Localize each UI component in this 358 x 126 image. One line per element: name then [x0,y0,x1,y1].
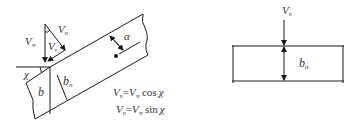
v-tau-label: Vτ [48,40,58,53]
alpha-reference-line [119,42,140,54]
v-n-label: Vn [58,23,68,36]
b-label: b [38,85,44,99]
normal-strip [232,45,344,83]
chi-angle-arc [40,67,42,73]
alpha-arrow-up [110,36,123,50]
alpha-label: α [124,30,130,42]
strip-right-break-edge [142,14,148,55]
right-vn-label: Vn [282,4,292,17]
v-inf-label: V∞ [25,35,37,48]
right-bn-label: bn [299,56,309,71]
triangle-angle-arc [45,30,50,32]
formula-cos: Vn=V∞cosχ [113,86,165,99]
bn-label: bn [63,74,73,89]
chi-label: χ [23,68,30,80]
formula-sin: Vn=V∞sinχ [116,103,166,116]
diagram-canvas: χ V∞ Vn Vτ b bn α Vn=V∞cosχ Vn=V∞sinχ Vn… [0,0,358,126]
point-marker [114,54,118,58]
